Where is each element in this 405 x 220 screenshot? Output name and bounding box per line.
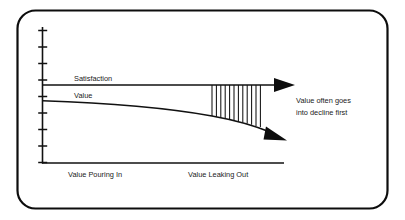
axis-label-value-pouring-in: Value Pouring In bbox=[68, 170, 122, 179]
annotation-line-1: Value often goes bbox=[296, 96, 351, 105]
annotation-line-2: into decline first bbox=[296, 108, 347, 117]
diagram-canvas: Satisfaction Value Value Pouring In Valu… bbox=[0, 0, 405, 220]
value-label: Value bbox=[74, 91, 92, 100]
figure-root: Satisfaction Value Value Pouring In Valu… bbox=[0, 0, 405, 220]
satisfaction-label: Satisfaction bbox=[74, 74, 112, 83]
axis-label-value-leaking-out: Value Leaking Out bbox=[188, 170, 248, 179]
